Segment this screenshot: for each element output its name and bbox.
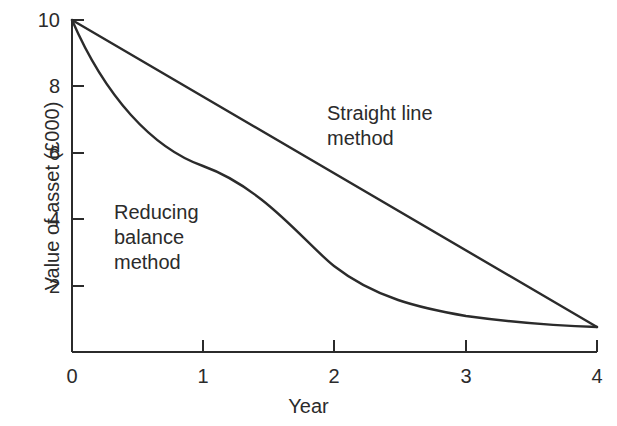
x-tick-label-0: 0 [66,366,77,386]
y-tick-label-10: 10 [10,10,60,30]
annotation-reducing-balance-method: Reducing balance method [114,200,199,275]
x-tick-label-2: 2 [328,366,339,386]
x-tick-label-4: 4 [591,366,602,386]
y-axis-label: Value of asset (£000) [42,51,62,341]
plot-area [0,0,617,426]
annotation-straight-line-method: Straight line method [327,101,433,151]
x-axis-label: Year [0,396,617,416]
x-tick-label-1: 1 [197,366,208,386]
x-tick-label-3: 3 [460,366,471,386]
series-line-straight-line-method [72,20,597,327]
depreciation-chart: 10 8 6 4 2 0 1 2 3 4 Value of asset (£00… [0,0,617,426]
